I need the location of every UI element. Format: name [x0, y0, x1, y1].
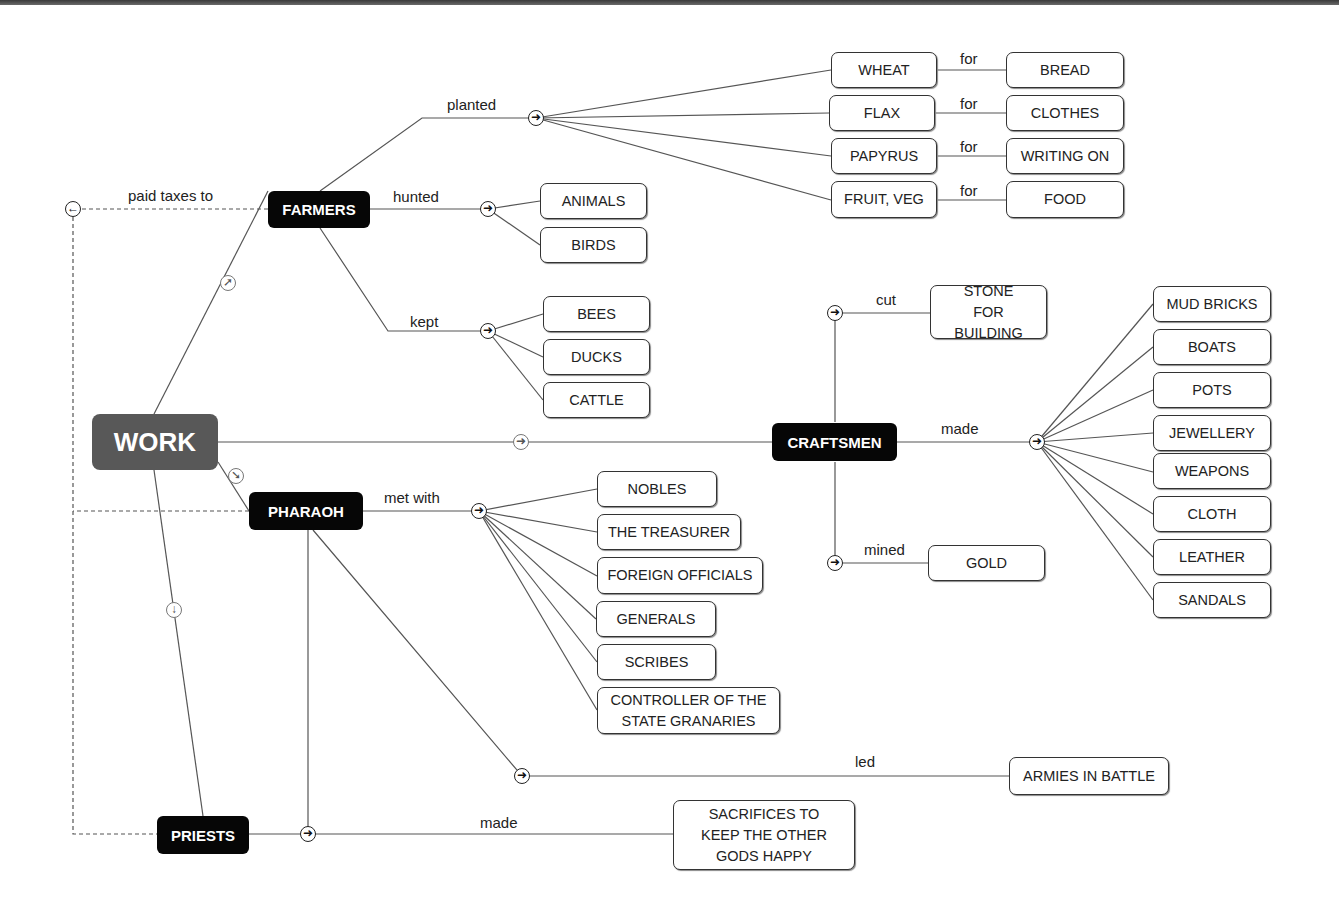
relation-hunted: hunted — [393, 188, 439, 205]
leaf-gold[interactable]: GOLD — [928, 545, 1045, 581]
leaf-sandals[interactable]: SANDALS — [1153, 582, 1271, 618]
leaf-fruit-veg[interactable]: FRUIT, VEG — [831, 181, 937, 218]
arrow-right-icon[interactable]: ➜ — [300, 826, 316, 842]
leaf-the-treasurer[interactable]: THE TREASURER — [597, 514, 741, 550]
leaf-label: FOOD — [1044, 189, 1086, 210]
leaf-label: STONE FOR BUILDING — [949, 281, 1028, 344]
farmers-label: FARMERS — [282, 199, 355, 220]
leaf-wheat[interactable]: WHEAT — [831, 52, 937, 88]
leaf-scribes[interactable]: SCRIBES — [597, 644, 716, 680]
leaf-label: FLAX — [864, 103, 900, 124]
arrow-right-icon[interactable]: ➜ — [480, 201, 496, 217]
relation-craftsmen-made: made — [941, 420, 979, 437]
node-craftsmen[interactable]: CRAFTSMEN — [772, 423, 897, 461]
leaf-jewellery[interactable]: JEWELLERY — [1153, 415, 1271, 451]
leaf-label: BEES — [577, 304, 616, 325]
leaf-label: FRUIT, VEG — [844, 189, 924, 210]
relation-kept: kept — [410, 313, 438, 330]
leaf-label: BOATS — [1188, 337, 1236, 358]
leaf-label: PAPYRUS — [850, 146, 918, 167]
arrow-right-icon[interactable]: ➜ — [480, 323, 496, 339]
leaf-boats[interactable]: BOATS — [1153, 329, 1271, 365]
leaf-label: BIRDS — [571, 235, 615, 256]
arrow-right-icon[interactable]: ➜ — [514, 768, 530, 784]
leaf-label: ARMIES IN BATTLE — [1023, 766, 1155, 787]
leaf-label: POTS — [1192, 380, 1231, 401]
leaf-food[interactable]: FOOD — [1006, 181, 1124, 218]
arrow-right-icon[interactable]: ➜ — [471, 503, 487, 519]
leaf-stone-for-building[interactable]: STONE FOR BUILDING — [930, 285, 1047, 339]
relation-met-with: met with — [384, 489, 440, 506]
leaf-writing-on[interactable]: WRITING ON — [1006, 138, 1124, 174]
priests-label: PRIESTS — [171, 825, 235, 846]
leaf-nobles[interactable]: NOBLES — [597, 471, 717, 507]
arrow-up-right-icon[interactable]: ➚ — [220, 275, 236, 291]
arrow-left-icon[interactable]: ← — [65, 201, 81, 217]
leaf-bread[interactable]: BREAD — [1006, 52, 1124, 88]
leaf-label: ANIMALS — [562, 191, 626, 212]
relation-for: for — [960, 138, 978, 155]
leaf-label: CATTLE — [569, 390, 624, 411]
leaf-cattle[interactable]: CATTLE — [543, 382, 650, 418]
leaf-label: MUD BRICKS — [1166, 294, 1257, 315]
leaf-pots[interactable]: POTS — [1153, 372, 1271, 408]
leaf-armies-in-battle[interactable]: ARMIES IN BATTLE — [1009, 757, 1169, 795]
relation-for: for — [960, 182, 978, 199]
arrow-down-right-icon[interactable]: ➘ — [228, 468, 244, 484]
craftsmen-label: CRAFTSMEN — [787, 432, 881, 453]
leaf-papyrus[interactable]: PAPYRUS — [831, 138, 937, 174]
relation-planted: planted — [447, 96, 496, 113]
leaf-clothes[interactable]: CLOTHES — [1006, 95, 1124, 131]
leaf-flax[interactable]: FLAX — [829, 95, 935, 131]
arrow-right-icon[interactable]: ➜ — [513, 434, 529, 450]
leaf-cloth[interactable]: CLOTH — [1153, 496, 1271, 532]
leaf-birds[interactable]: BIRDS — [540, 227, 647, 263]
leaf-label: WEAPONS — [1175, 461, 1249, 482]
leaf-label: LEATHER — [1179, 547, 1245, 568]
arrow-down-icon[interactable]: ↓ — [166, 602, 182, 618]
pharaoh-label: PHARAOH — [268, 501, 344, 522]
relation-for: for — [960, 95, 978, 112]
leaf-label: SACRIFICES TO KEEP THE OTHER GODS HAPPY — [688, 804, 840, 867]
node-farmers[interactable]: FARMERS — [268, 191, 370, 228]
relation-priests-made: made — [480, 814, 518, 831]
leaf-leather[interactable]: LEATHER — [1153, 539, 1271, 575]
leaf-label: WRITING ON — [1021, 146, 1110, 167]
leaf-label: CLOTHES — [1031, 103, 1100, 124]
leaf-label: SCRIBES — [625, 652, 689, 673]
leaf-label: JEWELLERY — [1169, 423, 1255, 444]
leaf-label: CLOTH — [1187, 504, 1236, 525]
leaf-label: BREAD — [1040, 60, 1090, 81]
leaf-foreign-officials[interactable]: FOREIGN OFFICIALS — [597, 557, 763, 594]
leaf-label: SANDALS — [1178, 590, 1246, 611]
arrow-right-icon[interactable]: ➜ — [827, 305, 843, 321]
root-label: WORK — [114, 432, 196, 453]
relation-led: led — [855, 753, 875, 770]
arrow-right-icon[interactable]: ➜ — [1029, 434, 1045, 450]
leaf-generals[interactable]: GENERALS — [596, 601, 716, 637]
leaf-ducks[interactable]: DUCKS — [543, 339, 650, 375]
leaf-label: FOREIGN OFFICIALS — [607, 565, 752, 586]
leaf-controller-of-state-granaries[interactable]: CONTROLLER OF THE STATE GRANARIES — [597, 687, 780, 734]
leaf-label: GOLD — [966, 553, 1007, 574]
leaf-label: NOBLES — [628, 479, 687, 500]
leaf-label: GENERALS — [617, 609, 696, 630]
node-priests[interactable]: PRIESTS — [157, 816, 249, 854]
leaf-label: DUCKS — [571, 347, 622, 368]
leaf-label: CONTROLLER OF THE STATE GRANARIES — [608, 690, 769, 732]
arrow-right-icon[interactable]: ➜ — [827, 555, 843, 571]
relation-mined: mined — [864, 541, 905, 558]
root-node-work[interactable]: WORK — [92, 414, 218, 470]
arrow-right-icon[interactable]: ➜ — [528, 110, 544, 126]
leaf-animals[interactable]: ANIMALS — [540, 183, 647, 219]
node-pharaoh[interactable]: PHARAOH — [249, 492, 363, 530]
leaf-label: WHEAT — [858, 60, 909, 81]
leaf-label: THE TREASURER — [608, 522, 730, 543]
leaf-mud-bricks[interactable]: MUD BRICKS — [1153, 286, 1271, 322]
leaf-bees[interactable]: BEES — [543, 296, 650, 332]
leaf-sacrifices[interactable]: SACRIFICES TO KEEP THE OTHER GODS HAPPY — [673, 800, 855, 870]
relation-paid-taxes-to: paid taxes to — [128, 187, 213, 204]
leaf-weapons[interactable]: WEAPONS — [1153, 453, 1271, 489]
relation-for: for — [960, 50, 978, 67]
relation-cut: cut — [876, 291, 896, 308]
